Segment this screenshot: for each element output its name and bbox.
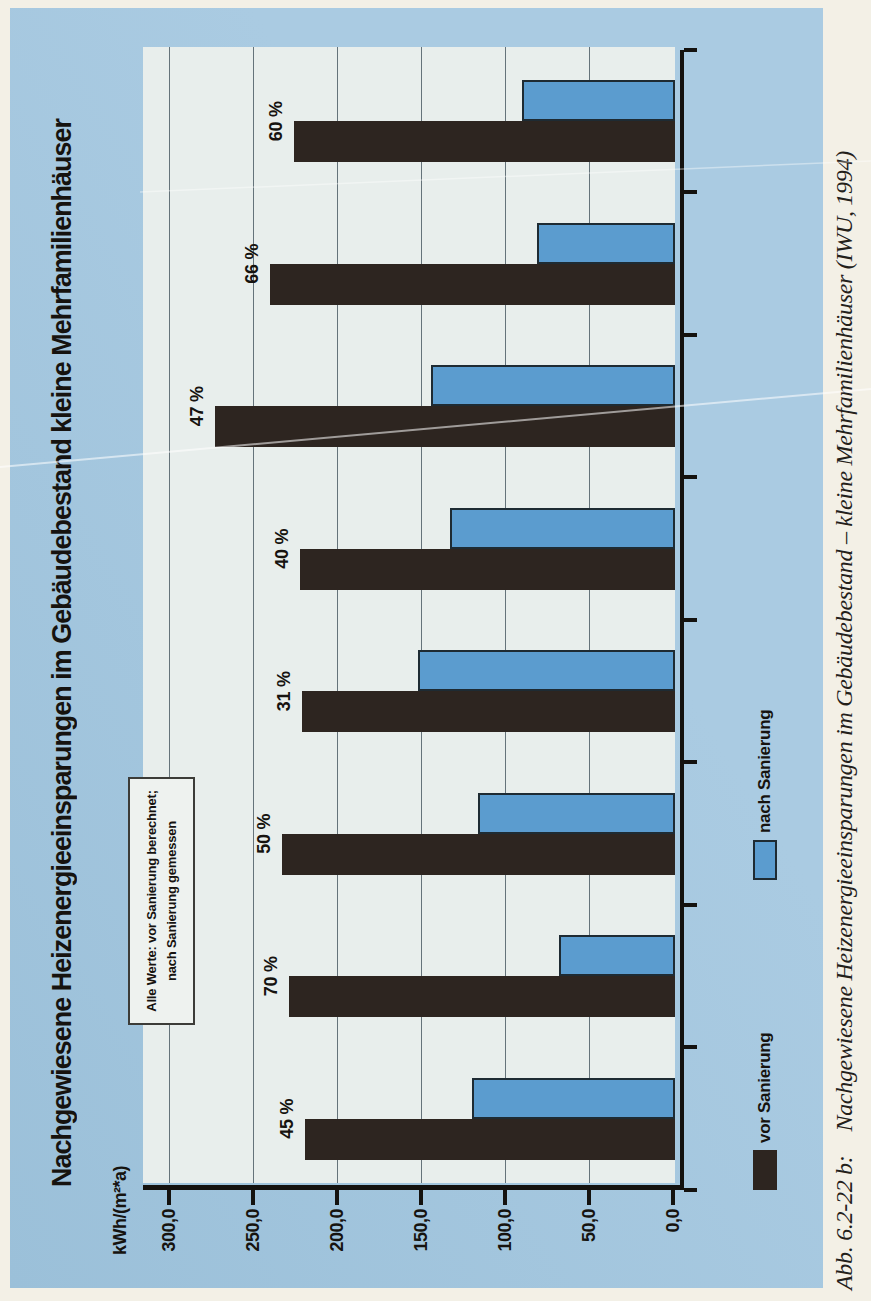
note-line-1: Alle Werte: vor Sanierung berechnet; — [142, 790, 162, 1012]
bar-vor-sanierung — [294, 121, 675, 162]
category-tick — [684, 476, 697, 480]
value-tick-label: 200,0 — [325, 1209, 349, 1289]
savings-percent-label: 66 % — [242, 219, 263, 309]
value-tick-label: 250,0 — [241, 1209, 265, 1289]
bar-nach-sanierung — [450, 508, 675, 549]
figure-title: Nachgewiesene Heizenergieeinsparungen im… — [46, 119, 78, 1187]
value-tick-label: 100,0 — [493, 1209, 517, 1289]
scanned-book-page: Nachgewiesene Heizenergieeinsparungen im… — [0, 0, 871, 1301]
gridline-250 — [253, 47, 254, 1183]
savings-percent-label: 60 % — [266, 76, 287, 166]
note-box: Alle Werte: vor Sanierung berechnet; nac… — [128, 777, 195, 1025]
value-tick-200 — [335, 1189, 339, 1205]
value-axis-line — [143, 1185, 684, 1190]
bar-vor-sanierung — [300, 549, 675, 590]
bar-vor-sanierung — [289, 976, 675, 1017]
savings-percent-label: 70 % — [261, 931, 282, 1021]
value-tick-150 — [419, 1189, 423, 1205]
value-tick-250 — [251, 1189, 255, 1205]
value-tick-50 — [587, 1189, 591, 1205]
category-tick — [684, 903, 697, 907]
note-line-2: nach Sanierung gemessen — [162, 821, 182, 981]
axis-unit-label: kWh/(m²*a) — [110, 1166, 131, 1255]
savings-percent-label: 47 % — [187, 361, 208, 451]
value-tick-0 — [671, 1189, 675, 1205]
figure-caption: Abb. 6.2-22 b:Nachgewiesene Heizenergiee… — [831, 4, 858, 1290]
bar-vor-sanierung — [282, 834, 675, 875]
savings-percent-label: 45 % — [277, 1074, 298, 1164]
value-tick-label: 50,0 — [577, 1209, 601, 1289]
bar-vor-sanierung — [302, 691, 675, 732]
rotated-figure-page: Nachgewiesene Heizenergieeinsparungen im… — [0, 0, 871, 1301]
bar-vor-sanierung — [215, 406, 675, 447]
legend-swatch-vor-sanierung — [753, 1150, 777, 1190]
category-tick — [684, 1188, 697, 1192]
savings-percent-label: 31 % — [274, 646, 295, 736]
value-tick-300 — [167, 1189, 171, 1205]
category-tick — [684, 618, 697, 622]
bar-vor-sanierung — [270, 264, 675, 305]
category-tick — [684, 48, 697, 52]
caption-text: Nachgewiesene Heizenergieeinsparungen im… — [831, 151, 857, 1131]
value-tick-label: 300,0 — [157, 1209, 181, 1289]
category-tick — [684, 191, 697, 195]
plot-area: 45 %70 %50 %31 %40 %47 %66 %60 % — [143, 47, 675, 1183]
savings-percent-label: 40 % — [272, 504, 293, 594]
legend-swatch-nach-sanierung — [753, 840, 777, 880]
bar-nach-sanierung — [559, 935, 675, 976]
value-tick-label: 0,0 — [661, 1209, 685, 1289]
value-tick-100 — [503, 1189, 507, 1205]
value-tick-label: 150,0 — [409, 1209, 433, 1289]
caption-number: Abb. 6.2-22 b: — [831, 1156, 857, 1290]
bar-nach-sanierung — [537, 223, 675, 264]
category-tick — [684, 333, 697, 337]
savings-percent-label: 50 % — [254, 789, 275, 879]
bar-vor-sanierung — [305, 1119, 675, 1160]
category-tick — [684, 1046, 697, 1050]
bar-nach-sanierung — [418, 650, 675, 691]
bar-nach-sanierung — [431, 365, 675, 406]
legend-label-vor-sanierung: vor Sanierung — [751, 1033, 778, 1143]
bar-nach-sanierung — [478, 793, 675, 834]
bar-nach-sanierung — [472, 1078, 675, 1119]
bar-nach-sanierung — [522, 80, 675, 121]
category-tick — [684, 761, 697, 765]
legend-label-nach-sanierung: nach Sanierung — [751, 710, 778, 833]
